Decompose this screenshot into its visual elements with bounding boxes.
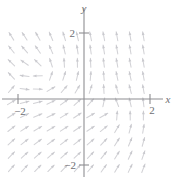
field-arrow-head	[142, 151, 145, 155]
field-arrow-head	[39, 88, 42, 91]
y-tick-label-pos2: 2	[70, 27, 76, 39]
field-arrow-head	[33, 74, 36, 77]
axis-labels-layer: x y −2 2 2 −2	[14, 2, 170, 171]
field-arrow-head	[142, 111, 145, 114]
plot-canvas: x y −2 2 2 −2	[0, 0, 179, 180]
field-arrow-head	[143, 164, 146, 168]
field-arrow-head	[50, 72, 53, 76]
y-tick-label-neg2: −2	[64, 159, 76, 171]
vector-field-arrows	[8, 32, 146, 173]
direction-field-figure: x y −2 2 2 −2	[0, 0, 179, 180]
field-arrow-head	[63, 58, 66, 61]
field-arrow-head	[102, 85, 105, 88]
field-arrow-head	[129, 111, 132, 114]
axes-layer	[2, 8, 163, 177]
field-arrow-head	[63, 72, 66, 75]
x-axis-label: x	[165, 93, 171, 105]
field-arrow-head	[76, 58, 79, 61]
field-arrow-head	[62, 32, 65, 35]
field-arrow-head	[49, 58, 52, 61]
x-tick-label-neg2: −2	[14, 105, 26, 117]
field-arrow-head	[116, 111, 119, 114]
field-arrow-head	[90, 85, 93, 88]
field-arrow-head	[89, 71, 92, 74]
x-tick-label-pos2: 2	[149, 104, 155, 116]
y-axis-label: y	[81, 2, 87, 14]
field-arrow-head	[89, 58, 92, 61]
